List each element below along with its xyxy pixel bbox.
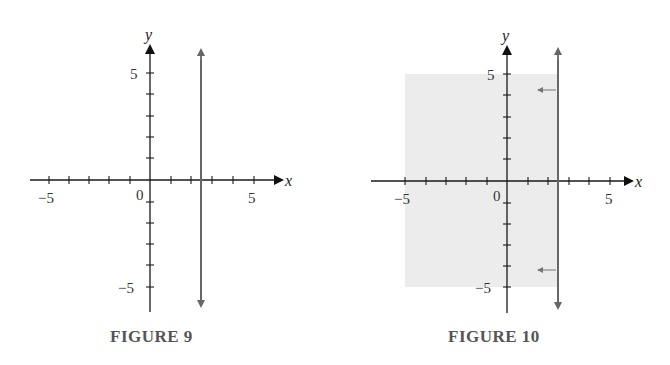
y-tick-label-neg5: −5 — [475, 280, 491, 296]
figure-9-caption: FIGURE 9 — [110, 327, 193, 347]
figure-10-graph: x y −5 5 0 5 −5 — [335, 0, 670, 365]
figure-9: x y −5 5 0 5 −5 FIGURE 9 — [0, 0, 335, 365]
figure-10-caption: FIGURE 10 — [448, 327, 540, 347]
y-axis-label: y — [143, 26, 153, 44]
x-axis-label: x — [284, 172, 292, 189]
x-tick-label-neg5: −5 — [394, 191, 410, 207]
figure-10: x y −5 5 0 5 −5 FIGURE 10 — [335, 0, 670, 365]
origin-label: 0 — [136, 187, 144, 203]
x-tick-label-5: 5 — [248, 190, 256, 206]
y-tick-label-5: 5 — [487, 67, 495, 83]
x-tick-label-neg5: −5 — [38, 190, 54, 206]
figure-9-graph: x y −5 5 0 5 −5 — [0, 0, 335, 365]
origin-label: 0 — [493, 188, 501, 204]
y-tick-label-neg5: −5 — [118, 280, 134, 296]
x-axis-label: x — [634, 173, 642, 190]
x-tick-label-5: 5 — [605, 191, 613, 207]
y-tick-label-5: 5 — [130, 66, 138, 82]
y-axis-label: y — [500, 27, 510, 45]
